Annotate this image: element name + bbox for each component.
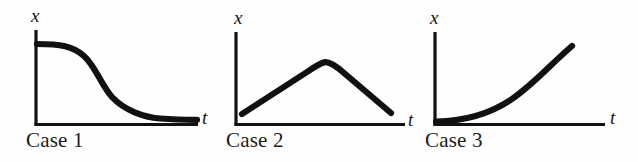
case-3-x-axis-label: t	[610, 108, 615, 127]
case-2-rise-fall-curve	[242, 62, 391, 114]
case-2-panel: x t Case 2	[212, 0, 420, 162]
case-3-panel: x t Case 3	[420, 0, 638, 162]
case-2-y-axis-label: x	[234, 8, 242, 27]
three-case-graph-figure: x t Case 1 x t Case 2 x t Case 3	[0, 0, 638, 162]
case-1-decay-curve	[37, 44, 197, 120]
case-1-panel: x t Case 1	[0, 0, 212, 162]
case-1-y-axis-label: x	[31, 6, 39, 25]
case-3-growth-curve	[436, 46, 572, 122]
case-2-x-axis-label: t	[408, 110, 413, 129]
case-2-caption: Case 2	[226, 130, 284, 151]
case-3-caption: Case 3	[425, 130, 483, 151]
case-1-x-axis-label: t	[202, 108, 207, 127]
case-3-y-axis-label: x	[430, 8, 438, 27]
case-1-caption: Case 1	[26, 130, 84, 151]
